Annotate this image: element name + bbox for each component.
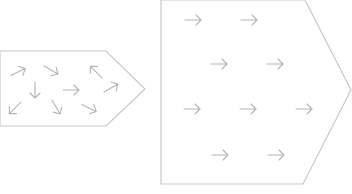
- right-arrow-shape: [161, 0, 351, 184]
- left-arrow-shape: [0, 51, 145, 126]
- alignment-diagram: [0, 0, 352, 194]
